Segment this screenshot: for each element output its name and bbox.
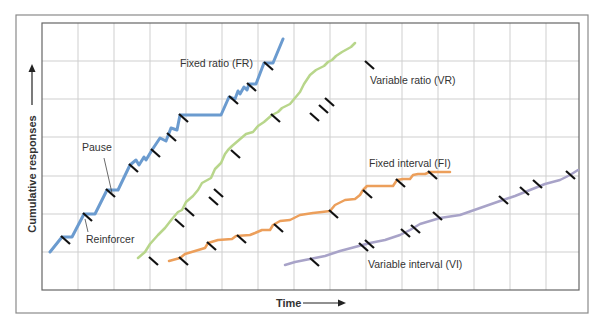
series-line-variable-ratio-vr — [138, 43, 355, 258]
series-line-fixed-interval-fi — [169, 172, 450, 261]
reinforcer-mark-icon — [179, 257, 188, 265]
grid-lines — [42, 23, 579, 290]
annotation-reinforcer: Reinforcer — [86, 233, 135, 245]
annotation-pointers — [85, 158, 112, 232]
reinforcer-mark-icon — [271, 114, 280, 122]
y-axis-label: Cumulative responses — [26, 64, 38, 233]
x-axis-label: Time — [276, 297, 346, 309]
reinforcer-mark-icon — [363, 190, 372, 198]
outer-frame — [16, 15, 588, 313]
reinforcer-mark-icon — [274, 224, 283, 232]
reinforcement-schedules-chart: Fixed ratio (FR)Variable ratio (VR)Fixed… — [0, 0, 600, 332]
reinforcer-mark-icon — [151, 149, 160, 157]
reinforcer-mark-icon — [319, 105, 328, 113]
pointer-line-reinforcer — [85, 219, 88, 232]
reinforcer-mark-icon — [175, 219, 184, 227]
reinforcer-mark-icon — [209, 197, 218, 205]
annotation-variable-interval-vi: Variable interval (VI) — [368, 258, 462, 270]
series-layer — [50, 39, 578, 265]
y-axis-arrow-icon — [29, 64, 36, 72]
annotation-fixed-interval-fi: Fixed interval (FI) — [369, 157, 451, 169]
reinforcer-mark-icon — [310, 113, 319, 121]
reinforcer-mark-icon — [231, 150, 240, 158]
y-axis-title: Cumulative responses — [26, 115, 38, 232]
x-axis-title: Time — [276, 297, 301, 309]
annotation-variable-ratio-vr: Variable ratio (VR) — [370, 74, 456, 86]
reinforcer-mark-icon — [129, 164, 138, 172]
x-axis-arrow-icon — [338, 300, 346, 307]
plot-frame — [42, 23, 579, 290]
annotation-fixed-ratio-fr: Fixed ratio (FR) — [180, 57, 253, 69]
series-line-variable-interval-vi — [285, 170, 578, 265]
annotation-pause: Pause — [82, 141, 112, 153]
